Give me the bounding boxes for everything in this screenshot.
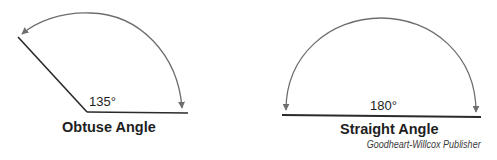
obtuse-ray-left bbox=[18, 37, 87, 112]
straight-angle-degree-label: 180° bbox=[370, 98, 397, 113]
publisher-credit: Goodheart-Willcox Publisher bbox=[367, 139, 481, 150]
straight-angle-title: Straight Angle bbox=[340, 121, 439, 137]
obtuse-ray-base bbox=[87, 112, 188, 113]
obtuse-angle-degree-label: 135° bbox=[89, 94, 116, 109]
obtuse-angle-title: Obtuse Angle bbox=[62, 119, 156, 135]
straight-line bbox=[282, 115, 481, 117]
